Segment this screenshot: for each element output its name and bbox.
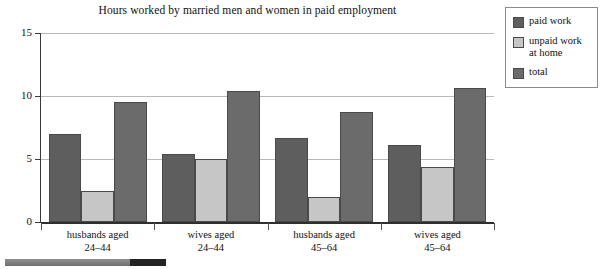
chart-legend: paid work unpaid work at home total — [505, 7, 598, 88]
x-tick-mark — [494, 223, 495, 230]
legend-item-total: total — [513, 66, 591, 79]
legend-swatch-icon — [513, 68, 524, 79]
gridline — [41, 96, 494, 97]
bar — [49, 134, 82, 222]
gridline — [41, 159, 494, 160]
bar — [454, 88, 487, 222]
bar — [388, 145, 421, 222]
category-label: wives aged24–44 — [154, 228, 267, 254]
y-tick-label: 10 — [2, 89, 32, 101]
category-label: wives aged45–64 — [381, 228, 494, 254]
category-label: husbands aged45–64 — [268, 228, 381, 254]
chart-title: Hours worked by married men and women in… — [0, 4, 495, 16]
bar — [227, 91, 260, 222]
legend-item-paid-work: paid work — [513, 15, 591, 28]
horizontal-scrollbar[interactable] — [5, 259, 166, 266]
bar — [308, 197, 341, 222]
bar — [421, 167, 454, 222]
y-tick-label: 5 — [2, 152, 32, 164]
y-tick-label: 0 — [2, 215, 32, 227]
legend-swatch-icon — [513, 37, 524, 48]
bar — [162, 154, 195, 222]
chart-figure: Hours worked by married men and women in… — [0, 0, 610, 269]
legend-label: unpaid work at home — [529, 35, 591, 59]
legend-label: paid work — [529, 15, 571, 27]
legend-item-unpaid-work-at-home: unpaid work at home — [513, 35, 591, 59]
bar — [195, 159, 228, 222]
bar — [81, 191, 114, 223]
y-tick-label: 15 — [2, 26, 32, 38]
category-label: husbands aged24–44 — [41, 228, 154, 254]
gridline — [41, 33, 494, 34]
bar — [275, 138, 308, 222]
plot-area — [41, 33, 494, 222]
bar — [114, 102, 147, 222]
scrollbar-thumb[interactable] — [130, 259, 166, 266]
legend-label: total — [529, 66, 548, 78]
bar — [340, 112, 373, 222]
legend-swatch-icon — [513, 17, 524, 28]
